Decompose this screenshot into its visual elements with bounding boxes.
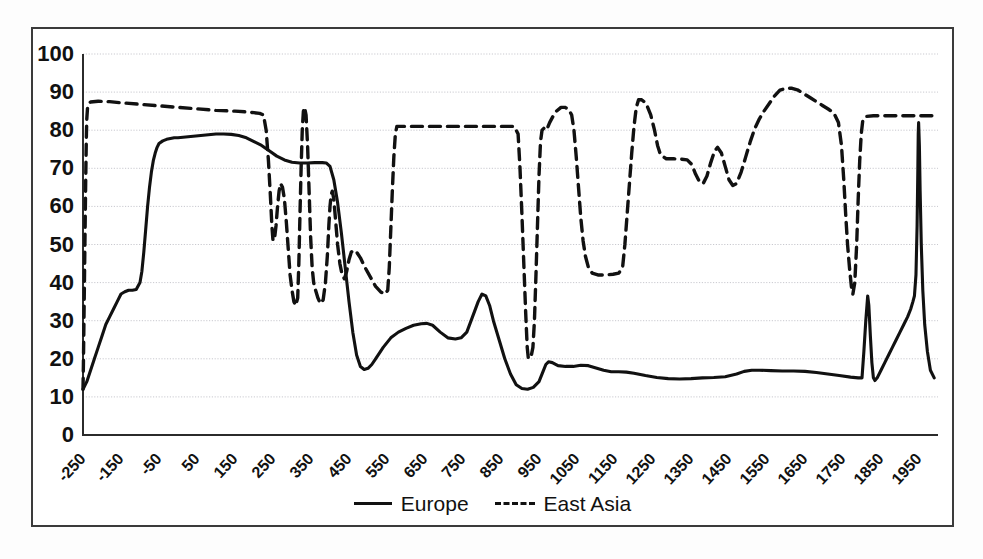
axis-line [83,54,938,435]
legend-swatch-dashed-icon [495,502,535,505]
series-lines [83,88,934,389]
y-tick-label: 50 [50,234,74,256]
y-tick-label: 80 [50,119,74,141]
y-tick-label: 100 [37,43,74,65]
legend-label: East Asia [544,493,632,514]
plot-area: 1009080706050403020100 -250-150-50501502… [0,0,983,559]
legend-item: Europe [354,493,469,514]
y-tick-label: 70 [50,157,74,179]
legend-label: Europe [401,493,469,514]
chart-legend: EuropeEast Asia [31,486,954,520]
series-line-europe [83,123,934,390]
gridlines [83,54,938,397]
y-tick-label: 60 [50,195,74,217]
y-tick-label: 0 [62,424,74,446]
y-tick-label: 90 [50,81,74,103]
legend-item: East Asia [495,493,632,514]
y-tick-label: 20 [50,348,74,370]
chart-figure: 1009080706050403020100 -250-150-50501502… [0,0,983,559]
y-tick-label: 10 [50,386,74,408]
legend-swatch-solid-icon [354,502,392,505]
axis-lines [83,54,938,435]
y-tick-label: 30 [50,310,74,332]
y-tick-label: 40 [50,272,74,294]
